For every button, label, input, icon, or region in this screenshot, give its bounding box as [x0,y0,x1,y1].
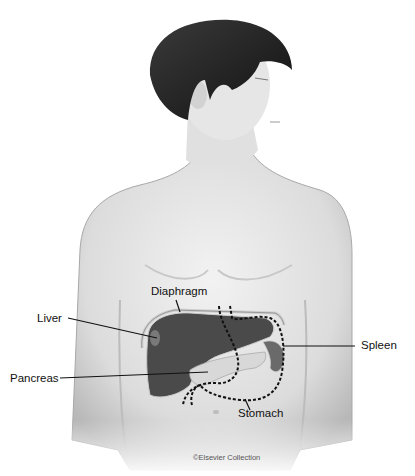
anatomy-illustration [0,0,415,476]
copyright-credit: ©Elsevier Collection [193,453,260,462]
label-stomach: Stomach [238,408,283,420]
label-diaphragm: Diaphragm [151,286,207,298]
torso [60,150,360,476]
label-liver: Liver [37,313,62,325]
label-pancreas: Pancreas [10,373,59,385]
label-spleen: Spleen [361,340,397,352]
head [150,20,292,167]
